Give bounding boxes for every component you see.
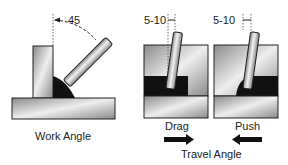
push-angle-value: 5-10: [213, 14, 235, 26]
work-angle-caption: Work Angle: [35, 130, 91, 142]
vertical-plate: [33, 46, 53, 98]
travel-angle-caption: Travel Angle: [181, 148, 242, 160]
push-caption: Push: [235, 120, 260, 132]
arrow-right-icon: [164, 134, 194, 145]
electrode-rod: [63, 37, 112, 86]
push-base-plate: [214, 96, 278, 118]
drag-angle-value: 5-10: [144, 14, 166, 26]
drag-caption: Drag: [165, 120, 189, 132]
base-plate: [12, 98, 115, 119]
push-weld-pool: [252, 76, 278, 96]
work-angle-figure: [12, 14, 115, 119]
arrowhead-icon: [54, 18, 60, 23]
drag-base-plate: [144, 96, 208, 118]
arrow-left-icon: [232, 134, 262, 145]
work-angle-value: 45: [68, 14, 80, 26]
